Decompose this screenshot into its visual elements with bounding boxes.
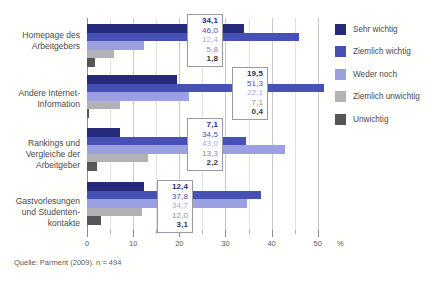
value-box: 34,146,012,45,81,8 [187, 14, 223, 67]
legend-item: Unwichtig [335, 108, 420, 131]
x-tick-label: 30 [221, 239, 229, 248]
x-tick-label: 50 [314, 239, 322, 248]
x-tick-major [318, 230, 319, 237]
value-label: 51,3 [237, 79, 263, 89]
bar-chart: Homepage des ArbeitgebersAndere Internet… [0, 0, 437, 281]
value-label: 34,1 [192, 16, 218, 26]
legend-swatch [335, 114, 346, 125]
x-tick-label: 10 [129, 239, 137, 248]
x-tick-major [87, 230, 88, 237]
bar [87, 154, 148, 163]
value-label: 1,8 [192, 54, 218, 64]
value-label: 34,7 [162, 201, 188, 211]
x-tick-minor [202, 230, 203, 234]
bar [87, 216, 101, 225]
legend-label: Weder noch [353, 70, 397, 79]
value-label: 7,1 [192, 120, 218, 130]
x-tick-label: 0 [85, 239, 89, 248]
value-label: 37,8 [162, 192, 188, 202]
bar [87, 208, 142, 217]
value-box: 7,134,543,013,32,2 [187, 118, 223, 171]
x-tick-major [272, 230, 273, 237]
legend-label: Unwichtig [353, 115, 389, 124]
bar [87, 92, 189, 101]
category-label: Andere Internet- Information [0, 88, 80, 110]
legend-swatch [335, 91, 346, 102]
legend-swatch [335, 46, 346, 57]
x-tick-label: 20 [175, 239, 183, 248]
value-label: 22,1 [237, 88, 263, 98]
bar [87, 128, 120, 137]
bar [87, 101, 120, 110]
legend-item: Sehr wichtig [335, 18, 420, 41]
value-label: 43,0 [192, 139, 218, 149]
value-box: 12,437,834,712,03,1 [157, 180, 193, 233]
legend-swatch [335, 24, 346, 35]
value-label: 19,5 [237, 69, 263, 79]
bar [87, 75, 177, 84]
x-tick-minor [249, 230, 250, 234]
value-label: 34,5 [192, 130, 218, 140]
legend-item: Ziemlich wichtig [335, 41, 420, 64]
legend-label: Ziemlich wichtig [353, 47, 411, 56]
value-label: 2,2 [192, 158, 218, 168]
x-tick-label: 40 [267, 239, 275, 248]
bar [87, 41, 144, 50]
value-box: 19,551,322,17,10,4 [232, 67, 268, 120]
value-label: 12,4 [162, 182, 188, 192]
bar [87, 84, 324, 93]
legend-swatch [335, 69, 346, 80]
legend: Sehr wichtigZiemlich wichtigWeder nochZi… [335, 18, 420, 131]
value-label: 3,1 [162, 220, 188, 230]
category-label: Gastvorlesungen und Studenten- kontakte [0, 196, 80, 229]
bar-group [87, 182, 327, 225]
bar [87, 50, 114, 59]
legend-item: Ziemlich unwichtig [335, 86, 420, 109]
category-label: Rankings und Vergleiche der Arbeitgeber [0, 138, 80, 171]
x-tick-major [133, 230, 134, 237]
legend-item: Weder noch [335, 63, 420, 86]
x-axis-unit-label: % [337, 239, 344, 248]
category-label: Homepage des Arbeitgebers [0, 30, 80, 52]
bar [87, 58, 95, 67]
x-tick-major [225, 230, 226, 237]
x-tick-minor [110, 230, 111, 234]
value-label: 46,0 [192, 26, 218, 36]
bar [87, 109, 89, 118]
x-tick-minor [295, 230, 296, 234]
bar [87, 182, 144, 191]
value-label: 12,4 [192, 35, 218, 45]
bar [87, 162, 97, 171]
source-note: Quelle: Parment (2009). n = 494 [14, 258, 121, 267]
bar-group [87, 75, 327, 118]
legend-label: Sehr wichtig [353, 25, 398, 34]
value-label: 0,4 [237, 107, 263, 117]
value-label: 7,1 [237, 98, 263, 108]
legend-label: Ziemlich unwichtig [353, 92, 420, 101]
value-label: 5,8 [192, 45, 218, 55]
value-label: 12,0 [162, 211, 188, 221]
value-label: 13,3 [192, 149, 218, 159]
